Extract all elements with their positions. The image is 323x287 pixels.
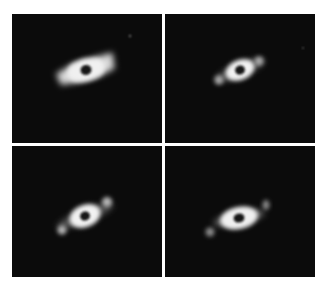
image-panel-top-right xyxy=(165,14,315,143)
satellite-right xyxy=(263,200,270,210)
satellite-left xyxy=(58,226,67,235)
planet-image-top-left xyxy=(12,14,162,143)
image-panel-top-left xyxy=(12,14,162,143)
planet-image-bottom-left xyxy=(12,146,162,277)
planet-image-bottom-right xyxy=(165,146,315,277)
field-star xyxy=(129,35,131,37)
field-star xyxy=(302,47,304,49)
image-panel-bottom-right xyxy=(165,146,315,277)
satellite-left xyxy=(206,228,215,237)
image-panel-bottom-left xyxy=(12,146,162,277)
planet-image-top-right xyxy=(165,14,315,143)
satellite-left xyxy=(215,76,224,85)
satellite-right xyxy=(102,197,112,207)
satellite-right xyxy=(255,57,264,66)
